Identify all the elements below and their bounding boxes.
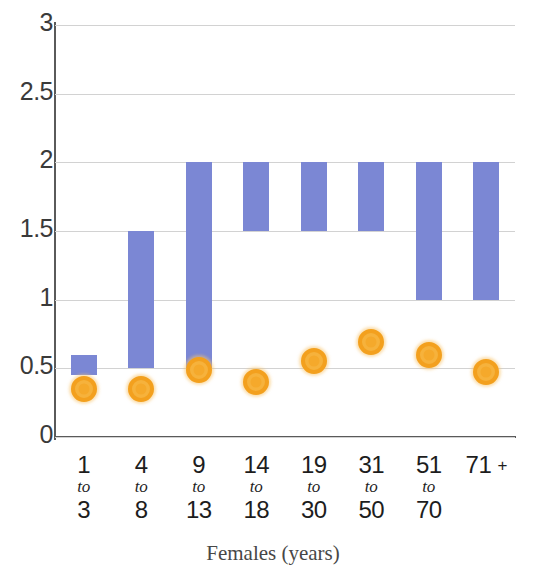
range-bar [416,162,442,299]
x-axis-tick-label: 71 + [451,452,521,477]
y-axis-tick-label: 2 [0,145,53,174]
x-tick-range-end: 70 [394,497,464,522]
y-axis-tick-label: 0 [0,420,53,449]
scatter-marker [243,369,269,395]
range-bar [243,162,269,231]
gridline [55,368,515,369]
scatter-marker [358,329,384,355]
range-bar [71,355,97,376]
scatter-marker [473,359,499,385]
range-bar [186,162,212,368]
x-tick-range-start: 71 + [451,452,521,477]
gridline [55,162,515,163]
y-axis-tick-label: 1.5 [0,214,53,243]
scatter-marker [416,342,442,368]
plot-area [55,25,515,437]
gridline [55,437,515,438]
scatter-marker [128,376,154,402]
range-bar [301,162,327,231]
scatter-marker [186,357,212,383]
scatter-marker [301,348,327,374]
gridline [55,231,515,232]
y-axis-tick-label: 1 [0,283,53,312]
gridline [55,300,515,301]
gridline [55,25,515,26]
chart-container: 00.511.522.53 1to34to89to1314to1819to303… [0,0,546,579]
scatter-marker [71,376,97,402]
range-bar [358,162,384,231]
y-axis-tick-label: 3 [0,8,53,37]
x-tick-range-connector: to [394,477,464,497]
y-axis-tick-label: 2.5 [0,77,53,106]
range-bar [128,231,154,368]
y-axis-tick-label: 0.5 [0,351,53,380]
range-bar [473,162,499,299]
x-axis-title: Females (years) [0,541,546,566]
gridline [55,94,515,95]
